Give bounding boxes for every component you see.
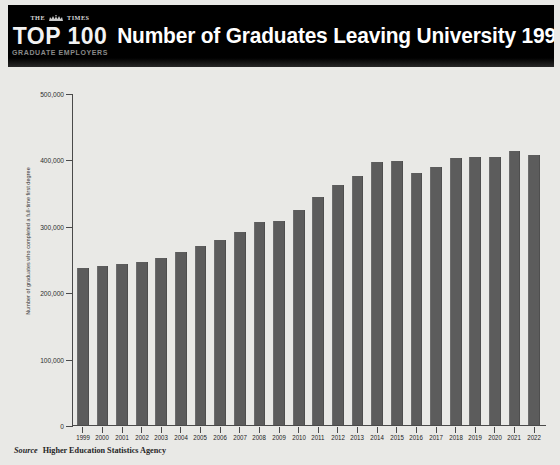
bar-chart: Number of graduates who completed a full… — [8, 76, 554, 436]
source-label: Source — [14, 446, 38, 455]
x-tick-label: 2012 — [331, 434, 345, 446]
x-tick-wrap — [132, 427, 152, 433]
x-label-wrap: 2002 — [132, 434, 152, 446]
x-label-wrap: 2005 — [191, 434, 211, 446]
x-tick-wrap — [348, 427, 368, 433]
bar-column — [505, 94, 525, 425]
x-tick-wrap — [426, 427, 446, 433]
bar-column — [210, 94, 230, 425]
bar — [175, 252, 187, 425]
header-banner: THE TIMES TOP 100 GRADUATE EMPLOYERS Num… — [8, 5, 554, 67]
bar-column — [269, 94, 289, 425]
header-fade-strip — [8, 58, 554, 67]
y-tick — [66, 227, 73, 228]
x-label-wrap: 2008 — [250, 434, 270, 446]
y-axis-title-text: Number of graduates who completed a full… — [25, 167, 31, 315]
x-tick-wrap — [191, 427, 211, 433]
x-label-wrap: 2004 — [171, 434, 191, 446]
x-tick-wrap — [367, 427, 387, 433]
x-tick — [436, 427, 437, 433]
x-tick-wrap — [407, 427, 427, 433]
x-tick-label: 2010 — [292, 434, 306, 446]
bar-column — [387, 94, 407, 425]
bar — [214, 240, 226, 425]
bar-column — [132, 94, 152, 425]
bar-series — [73, 94, 544, 425]
x-tick — [298, 427, 299, 433]
source-value: Higher Education Statistics Agency — [43, 446, 166, 455]
y-tick — [66, 360, 73, 361]
x-tick-label: 2019 — [468, 434, 482, 446]
y-tick — [66, 160, 73, 161]
x-tick-wrap — [93, 427, 113, 433]
bar-column — [524, 94, 544, 425]
x-tick — [416, 427, 417, 433]
bar — [195, 246, 207, 425]
x-tick-label: 2006 — [213, 434, 227, 446]
x-tick — [357, 427, 358, 433]
x-tick — [239, 427, 240, 433]
x-tick-label: 2009 — [272, 434, 286, 446]
bar-column — [191, 94, 211, 425]
x-tick-label: 2001 — [115, 434, 129, 446]
bar — [136, 262, 148, 425]
x-label-wrap: 2003 — [152, 434, 172, 446]
x-tick — [82, 427, 83, 433]
plot-area: 0100,000200,000300,000400,000500,000 199… — [56, 94, 546, 426]
bar — [371, 162, 383, 425]
x-axis-line — [72, 425, 546, 426]
logo-the-text: THE — [30, 14, 45, 21]
bar-column — [309, 94, 329, 425]
bar — [528, 155, 540, 425]
x-tick-label: 2021 — [508, 434, 522, 446]
x-label-wrap: 2015 — [387, 434, 407, 446]
x-tick-wrap — [210, 427, 230, 433]
x-tick — [102, 427, 103, 433]
x-tick — [279, 427, 280, 433]
x-label-wrap: 2009 — [269, 434, 289, 446]
x-tick — [494, 427, 495, 433]
x-tick-label: 1999 — [76, 434, 90, 446]
bar — [155, 258, 167, 425]
y-axis-title: Number of graduates who completed a full… — [22, 76, 34, 406]
x-tick — [475, 427, 476, 433]
x-tick — [220, 427, 221, 433]
bar — [391, 161, 403, 425]
bar-column — [328, 94, 348, 425]
x-tick-label: 2015 — [390, 434, 404, 446]
x-tick — [180, 427, 181, 433]
x-tick-wrap — [485, 427, 505, 433]
x-tick — [318, 427, 319, 433]
x-label-wrap: 2018 — [446, 434, 466, 446]
bar-column — [446, 94, 466, 425]
bar-column — [485, 94, 505, 425]
x-tick-wrap — [112, 427, 132, 433]
bar — [509, 151, 521, 425]
x-tick-label: 2005 — [194, 434, 208, 446]
x-tick-wrap — [73, 427, 93, 433]
bar — [234, 232, 246, 425]
bar — [489, 157, 501, 425]
y-tick — [66, 94, 73, 95]
y-tick-label: 500,000 — [40, 91, 64, 98]
x-tick-wrap — [250, 427, 270, 433]
bar — [469, 157, 481, 425]
bar-column — [230, 94, 250, 425]
bar — [332, 185, 344, 425]
bar-column — [112, 94, 132, 425]
y-tick — [66, 293, 73, 294]
x-tick-wrap — [328, 427, 348, 433]
bar — [411, 173, 423, 425]
logo-graduate-employers: GRADUATE EMPLOYERS — [12, 48, 108, 58]
infographic-page: THE TIMES TOP 100 GRADUATE EMPLOYERS Num… — [0, 0, 560, 465]
bar — [293, 210, 305, 425]
x-tick — [514, 427, 515, 433]
x-tick-label: 2007 — [233, 434, 247, 446]
x-label-wrap: 2010 — [289, 434, 309, 446]
x-tick — [396, 427, 397, 433]
y-tick-label: 100,000 — [40, 356, 64, 363]
x-tick-label: 2011 — [312, 434, 325, 446]
x-label-wrap: 2019 — [466, 434, 486, 446]
x-tick-label: 2020 — [488, 434, 502, 446]
x-label-wrap: 2017 — [426, 434, 446, 446]
